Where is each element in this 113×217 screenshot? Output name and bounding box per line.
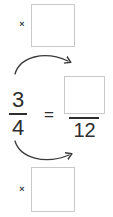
equivalent-fraction-worksheet: × 3 4 = 12 × (0, 0, 113, 217)
bottom-arrow (15, 141, 69, 160)
left-fraction-denominator: 4 (4, 116, 32, 140)
right-fraction-numerator-input-box[interactable] (64, 76, 105, 114)
multiplier-top-input-box[interactable] (31, 4, 75, 47)
multiply-symbol-top: × (17, 20, 27, 29)
left-fraction-numerator: 3 (4, 88, 32, 112)
multiply-symbol-bottom: × (17, 185, 27, 194)
left-fraction: 3 4 (4, 88, 32, 140)
equals-sign: = (42, 105, 56, 125)
top-arrow (15, 56, 68, 74)
right-fraction-denominator: 12 (64, 119, 105, 141)
multiplier-bottom-input-box[interactable] (31, 167, 75, 212)
